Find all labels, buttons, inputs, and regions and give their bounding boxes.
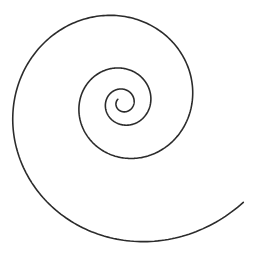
spiral-diagram (0, 0, 261, 253)
background (0, 0, 261, 253)
